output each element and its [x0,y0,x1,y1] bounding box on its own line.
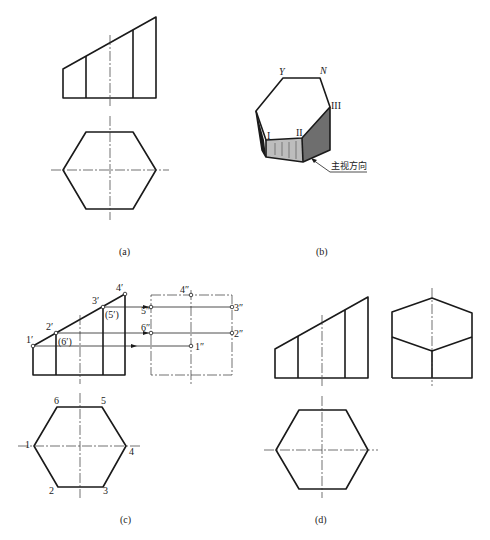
label-3pp: 3″ [234,302,243,313]
label-5: 5 [101,395,106,406]
panel-c-side-view: 4″ 5″ 3″ 6″ 2″ 1″ [141,284,243,384]
label-III: III [331,100,341,111]
label-1: 1 [25,439,30,450]
label-3: 3 [103,485,108,496]
view-direction-label: 主视方向 [331,160,367,171]
panel-a-caption: (a) [119,246,130,258]
label-3p: 3′ [92,295,99,306]
label-1p: 1′ [26,334,33,345]
label-N: N [319,65,328,76]
panel-c-caption: (c) [120,514,131,526]
panel-c: 1′ 2′ (6′) 3′ (5′) 4′ 4″ 5″ 3″ 6″ 2″ 1″ [18,282,243,526]
label-I: I [267,130,270,141]
panel-b-caption: (b) [316,246,328,258]
label-2: 2 [49,485,54,496]
panel-a-front-view [63,17,156,106]
label-6p: (6′) [58,336,72,348]
label-5pp: 5″ [141,305,150,316]
label-4pp: 4″ [180,284,189,295]
label-4p: 4′ [116,282,123,293]
engineering-drawing: (a) Y N III I II 主视方向 (b) [0,0,490,540]
panel-c-top-view: 6 5 1 4 2 3 [18,393,140,498]
panel-a-top-view [51,116,169,220]
label-II: II [296,127,303,138]
panel-d-caption: (d) [315,514,327,526]
panel-b: Y N III I II 主视方向 (b) [256,65,367,258]
label-5p: (5′) [105,309,119,321]
panel-a: (a) [51,17,169,258]
panel-d-front-view [275,297,368,386]
panel-d: (d) [264,288,472,526]
panel-d-side-view [392,288,472,386]
panel-d-top-view [264,396,378,498]
label-6: 6 [54,395,59,406]
label-Y: Y [279,66,286,77]
label-6pp: 6″ [141,322,150,333]
label-2pp: 2″ [234,328,243,339]
label-2p: 2′ [46,321,53,332]
label-1pp: 1″ [195,341,204,352]
label-4: 4 [129,446,134,457]
